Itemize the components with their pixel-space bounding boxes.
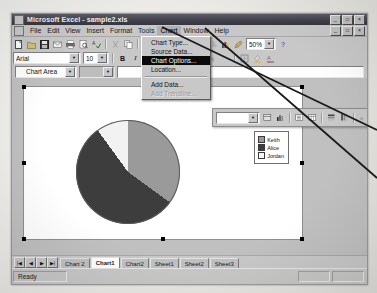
italic-label: I bbox=[134, 54, 136, 62]
font-name-value: Arial bbox=[16, 55, 69, 62]
zoom-value: 50% bbox=[249, 41, 264, 48]
title-bar: Microsoft Excel - sample2.xls _ □ × bbox=[12, 14, 367, 25]
font-size-value: 10 bbox=[86, 55, 97, 62]
chart-type-icon[interactable] bbox=[275, 112, 286, 123]
zoom-dropdown-arrow[interactable]: ▼ bbox=[264, 39, 274, 49]
svg-text:A: A bbox=[267, 55, 271, 61]
toolbar-separator bbox=[105, 39, 107, 49]
fill-color-icon[interactable] bbox=[252, 53, 263, 64]
font-color-icon[interactable]: A bbox=[265, 53, 276, 64]
font-name-dropdown-arrow[interactable]: ▼ bbox=[69, 53, 79, 63]
comma-format-icon[interactable] bbox=[220, 53, 231, 64]
legend-entry-alice[interactable]: Alice bbox=[258, 144, 284, 151]
menu-item-edit[interactable]: Edit bbox=[44, 26, 62, 35]
chart-legend[interactable]: Keith Alice Jordan bbox=[254, 131, 289, 164]
chart-toolbar: ▼ bbox=[212, 108, 367, 127]
email-icon[interactable] bbox=[52, 39, 63, 50]
font-size-dropdown-arrow[interactable]: ▼ bbox=[97, 53, 107, 63]
help-icon[interactable]: ? bbox=[278, 39, 289, 50]
chart-toolbar-object-combo[interactable]: ▼ bbox=[216, 112, 260, 124]
print-preview-icon[interactable] bbox=[78, 39, 89, 50]
legend-swatch-keith bbox=[258, 136, 265, 143]
drawing-icon[interactable] bbox=[233, 39, 244, 50]
chart-object-combo[interactable]: ▼ bbox=[79, 66, 115, 78]
chart-object-dropdown-arrow[interactable]: ▼ bbox=[103, 67, 113, 77]
legend-entry-keith[interactable]: Keith bbox=[258, 136, 284, 143]
selection-handle-bc[interactable] bbox=[161, 237, 165, 241]
selection-handle-ml[interactable] bbox=[22, 161, 26, 165]
toolbar-separator bbox=[353, 113, 355, 123]
angle-text-down-icon[interactable]: a bbox=[358, 112, 367, 123]
by-row-icon[interactable] bbox=[326, 112, 337, 123]
status-message-box: Ready bbox=[13, 271, 67, 282]
legend-toggle-icon[interactable] bbox=[294, 112, 305, 123]
excel-application-window: Microsoft Excel - sample2.xls _ □ × File… bbox=[11, 13, 368, 285]
new-file-icon[interactable] bbox=[13, 39, 24, 50]
svg-text:A: A bbox=[92, 40, 96, 46]
chart-sheet-canvas[interactable]: Keith Alice Jordan bbox=[12, 78, 367, 255]
name-box[interactable]: Chart Area ▼ bbox=[15, 66, 77, 78]
menu-option-location[interactable]: Location... bbox=[142, 65, 210, 74]
toolbar-separator bbox=[321, 113, 323, 123]
toolbar-separator bbox=[112, 53, 114, 63]
document-close-button[interactable]: × bbox=[354, 26, 365, 36]
svg-text:?: ? bbox=[281, 41, 285, 48]
selection-handle-bl[interactable] bbox=[22, 237, 26, 241]
menu-item-file[interactable]: File bbox=[27, 26, 44, 35]
selection-handle-br[interactable] bbox=[300, 237, 304, 241]
legend-entry-jordan[interactable]: Jordan bbox=[258, 152, 284, 159]
menu-separator bbox=[145, 76, 207, 78]
previous-sheet-button[interactable]: ◀ bbox=[25, 257, 36, 268]
menu-option-chart-options[interactable]: Chart Options... bbox=[142, 56, 210, 65]
chart-dropdown-menu: Chart Type... Source Data... Chart Optio… bbox=[141, 36, 211, 100]
open-folder-icon[interactable] bbox=[26, 39, 37, 50]
menu-item-format[interactable]: Format bbox=[107, 26, 135, 35]
print-icon[interactable] bbox=[65, 39, 76, 50]
menu-item-window[interactable]: Window bbox=[181, 26, 212, 35]
selection-handle-tr[interactable] bbox=[300, 85, 304, 89]
menu-item-view[interactable]: View bbox=[62, 26, 83, 35]
font-size-combo[interactable]: 10 ▼ bbox=[83, 52, 109, 64]
cut-icon[interactable] bbox=[110, 39, 121, 50]
window-controls: _ □ × bbox=[330, 15, 365, 25]
restore-button[interactable]: □ bbox=[342, 15, 353, 25]
spelling-check-icon[interactable]: A bbox=[91, 39, 102, 50]
menu-option-source-data[interactable]: Source Data... bbox=[142, 47, 210, 56]
selection-handle-tl[interactable] bbox=[22, 85, 26, 89]
menu-item-tools[interactable]: Tools bbox=[135, 26, 157, 35]
next-sheet-button[interactable]: ▶ bbox=[36, 257, 47, 268]
status-message: Ready bbox=[14, 272, 37, 281]
menu-option-chart-type[interactable]: Chart Type... bbox=[142, 38, 210, 47]
font-name-combo[interactable]: Arial ▼ bbox=[13, 52, 81, 64]
name-box-dropdown-arrow[interactable]: ▼ bbox=[65, 67, 75, 77]
menu-item-chart[interactable]: Chart bbox=[157, 26, 180, 35]
legend-label-keith: Keith bbox=[267, 137, 280, 143]
minimize-button[interactable]: _ bbox=[330, 15, 341, 25]
menu-item-insert[interactable]: Insert bbox=[83, 26, 107, 35]
last-sheet-button[interactable]: ▶| bbox=[47, 257, 58, 268]
status-indicator-box-2 bbox=[332, 271, 364, 282]
document-system-icon[interactable] bbox=[14, 26, 24, 36]
document-restore-button[interactable]: □ bbox=[342, 26, 353, 36]
by-column-icon[interactable] bbox=[339, 112, 350, 123]
format-object-icon[interactable] bbox=[262, 112, 273, 123]
bold-label: B bbox=[120, 55, 125, 62]
menu-option-add-data[interactable]: Add Data... bbox=[142, 80, 210, 89]
chart-toolbar-object-arrow[interactable]: ▼ bbox=[248, 113, 258, 123]
save-icon[interactable] bbox=[39, 39, 50, 50]
first-sheet-button[interactable]: |◀ bbox=[14, 257, 25, 268]
close-button[interactable]: × bbox=[354, 15, 365, 25]
data-table-icon[interactable] bbox=[307, 112, 318, 123]
pie-chart[interactable] bbox=[76, 120, 180, 224]
italic-button[interactable]: I bbox=[130, 53, 141, 64]
zoom-combo[interactable]: 50% ▼ bbox=[246, 38, 276, 50]
chart-wizard-icon[interactable] bbox=[220, 39, 231, 50]
legend-label-jordan: Jordan bbox=[267, 153, 284, 159]
copy-icon[interactable] bbox=[123, 39, 134, 50]
excel-app-icon bbox=[14, 15, 24, 25]
menu-item-help[interactable]: Help bbox=[211, 26, 231, 35]
borders-icon[interactable] bbox=[239, 53, 250, 64]
document-minimize-button[interactable]: _ bbox=[330, 26, 341, 36]
selection-handle-mr[interactable] bbox=[300, 161, 304, 165]
bold-button[interactable]: B bbox=[117, 53, 128, 64]
